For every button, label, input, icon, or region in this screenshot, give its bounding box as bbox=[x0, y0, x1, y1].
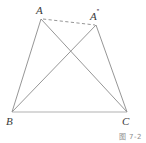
vertex-label-a: A bbox=[36, 3, 43, 16]
vertex-label-a-double-prime: A'' bbox=[90, 9, 99, 22]
segment-AC bbox=[41, 19, 127, 112]
segment-AB bbox=[12, 19, 41, 112]
prime-marks-a-double-prime: '' bbox=[97, 8, 99, 17]
vertex-label-c: C bbox=[122, 114, 129, 127]
segment-A2B bbox=[12, 25, 96, 112]
figure-caption: 图 7-2 bbox=[119, 131, 142, 141]
segment-A2C bbox=[96, 25, 127, 112]
vertex-label-b: B bbox=[6, 114, 13, 127]
segment-AA2-dashed bbox=[43, 19, 95, 25]
